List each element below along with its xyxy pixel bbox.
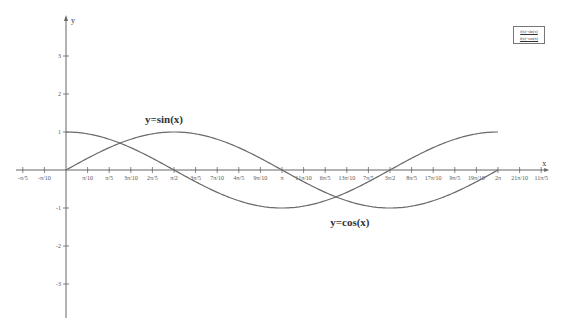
x-tick-label: 3π/2 — [385, 175, 396, 181]
x-tick-label: 9π/10 — [254, 175, 268, 181]
y-tick-label: -3 — [56, 281, 61, 287]
x-tick-label: π/10 — [82, 175, 93, 181]
legend-item-sin[interactable]: f(x)=sin(x) — [515, 28, 543, 35]
x-tick-label: 13π/10 — [338, 175, 355, 181]
x-tick-label: 2π/5 — [147, 175, 158, 181]
y-tick-label: -1 — [56, 205, 61, 211]
x-tick-label: 11π/5 — [534, 175, 547, 181]
y-tick-label: -2 — [56, 243, 61, 249]
x-tick-label: 21π/10 — [511, 175, 528, 181]
legend: f(x)=sin(x) f(x)=cos(x) — [513, 26, 545, 44]
x-tick-label: π — [280, 175, 283, 181]
x-tick-label: 8π/5 — [406, 175, 417, 181]
x-tick-label: 2π — [495, 175, 501, 181]
curve-label-cos: y=cos(x) — [330, 216, 370, 229]
y-tick-label: 3 — [58, 53, 61, 59]
x-tick-label: π/5 — [105, 175, 113, 181]
x-tick-label: 17π/10 — [425, 175, 442, 181]
x-tick-label: -π/5 — [18, 175, 28, 181]
y-axis-label: y — [71, 16, 75, 25]
x-axis-label: x — [542, 159, 546, 168]
x-tick-label: π/2 — [170, 175, 178, 181]
x-tick-label: 7π/10 — [210, 175, 224, 181]
function-plot: xy-π/5-π/10π/10π/53π/102π/5π/23π/57π/104… — [0, 0, 561, 329]
legend-item-cos[interactable]: f(x)=cos(x) — [515, 35, 543, 42]
axes: xy-π/5-π/10π/10π/53π/102π/5π/23π/57π/104… — [16, 15, 549, 318]
x-tick-label: -π/10 — [38, 175, 51, 181]
curve-label-sin: y=sin(x) — [145, 113, 183, 126]
x-tick-label: 4π/5 — [233, 175, 244, 181]
x-tick-label: 9π/5 — [449, 175, 460, 181]
x-tick-label: 6π/5 — [320, 175, 331, 181]
y-tick-label: 1 — [58, 129, 61, 135]
y-axis-arrow-icon — [64, 15, 68, 21]
y-tick-label: 2 — [58, 91, 61, 97]
x-axis-arrow-icon — [544, 168, 549, 172]
x-tick-label: 3π/10 — [124, 175, 138, 181]
